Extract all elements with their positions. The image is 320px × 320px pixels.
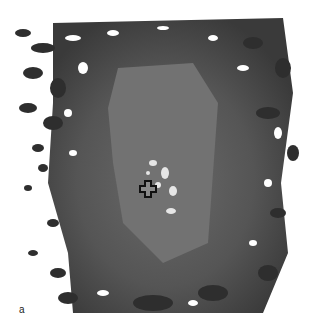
intensity-map [13,13,305,316]
panel-label: a [19,304,25,315]
image-panel: a [13,13,305,316]
crosshair-marker-icon [138,179,158,199]
